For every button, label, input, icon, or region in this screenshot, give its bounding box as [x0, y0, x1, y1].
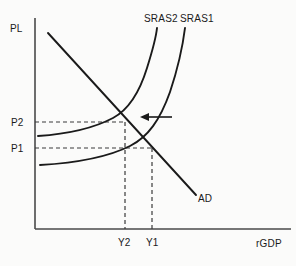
price-tick-p2: P2: [11, 117, 24, 128]
ad-curve-label: AD: [198, 193, 212, 204]
sras1-curve-label: SRAS1: [180, 13, 214, 24]
as-ad-diagram: PL rGDP P2 P1 Y2 Y1 SRAS2 SRAS1 AD: [0, 0, 296, 266]
output-tick-y1: Y1: [146, 237, 159, 248]
price-tick-p1: P1: [11, 143, 24, 154]
sras2-curve-label: SRAS2: [144, 13, 178, 24]
output-tick-y2: Y2: [118, 237, 131, 248]
y-axis-label: PL: [10, 23, 23, 34]
sras2-curve: [38, 28, 157, 136]
chart-canvas: PL rGDP P2 P1 Y2 Y1 SRAS2 SRAS1 AD: [0, 0, 296, 266]
shift-arrow-head-icon: [140, 113, 149, 121]
x-axis-label: rGDP: [256, 238, 282, 249]
ad-curve: [48, 33, 196, 195]
